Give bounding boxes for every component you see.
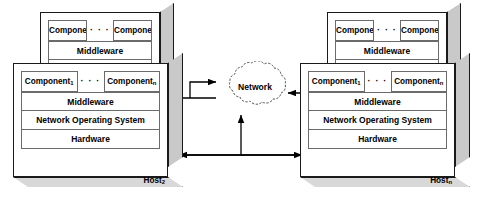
host-n-1-component-first: Component1 [335, 20, 374, 41]
connector-bottom-bus [165, 108, 320, 163]
host-2-component-row: Component1 · · · Componentn [21, 71, 160, 92]
host-box-host-2: Component1 · · · Componentn Middleware N… [13, 63, 183, 189]
host-2-nos-layer: Network Operating System [21, 111, 160, 130]
host-n-label: Hostn [430, 176, 452, 185]
host-2-label: Host2 [144, 176, 165, 185]
host-n-1-component-last: Componentn [400, 20, 439, 41]
host-2-layer-stack: Component1 · · · Componentn Middleware N… [21, 71, 160, 149]
host-n-middleware-layer: Middleware [308, 92, 447, 111]
host-n-component-last: Componentn [391, 71, 448, 92]
host-1-middleware-layer: Middleware [48, 41, 152, 60]
host-2-middleware-layer: Middleware [21, 92, 160, 111]
host-n-1-component-row: Component1 · · · Componentn [335, 20, 439, 41]
host-2-component-last: Componentn [104, 71, 161, 92]
host-n-hardware-layer: Hardware [308, 130, 447, 149]
host-1-component-ellipsis: · · · [87, 20, 113, 41]
host-n-1-component-ellipsis: · · · [374, 20, 400, 41]
host-2-component-first: Component1 [21, 71, 78, 92]
host-2-component-ellipsis: · · · [78, 71, 104, 92]
host-1-component-first: Component1 [48, 20, 87, 41]
host-n-layer-stack: Component1 · · · Componentn Middleware N… [308, 71, 447, 149]
diagram-canvas: Component1 · · · Componentn Middleware N… [0, 0, 493, 207]
host-1-component-row: Component1 · · · Componentn [48, 20, 152, 41]
host-n-side-face [455, 53, 470, 179]
host-n-component-first: Component1 [308, 71, 365, 92]
host-2-side-face [168, 53, 183, 179]
host-n-1-middleware-layer: Middleware [335, 41, 439, 60]
host-n-component-row: Component1 · · · Componentn [308, 71, 447, 92]
host-box-host-n: Component1 · · · Componentn Middleware N… [300, 63, 470, 189]
host-1-component-last: Componentn [113, 20, 152, 41]
host-n-component-ellipsis: · · · [365, 71, 391, 92]
host-n-nos-layer: Network Operating System [308, 111, 447, 130]
host-2-hardware-layer: Hardware [21, 130, 160, 149]
